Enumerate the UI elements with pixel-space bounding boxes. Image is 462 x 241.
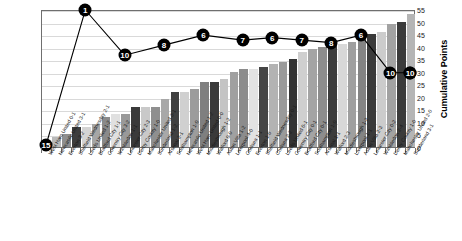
y-axis-title: Cumulative Points <box>437 10 451 148</box>
position-marker: 10 <box>118 49 131 62</box>
position-marker: 10 <box>404 66 417 79</box>
position-marker: 1 <box>79 4 92 17</box>
y-axis-tick-label: 50 <box>417 19 425 26</box>
position-marker: 6 <box>266 31 279 44</box>
x-axis-labels: West Ham United 0-1Newcastle United 3-1E… <box>41 153 415 241</box>
position-marker: 7 <box>295 34 308 47</box>
position-marker: 8 <box>158 39 171 52</box>
y-axis-tick-label: 30 <box>417 69 425 76</box>
y-axis-tick-label: 55 <box>417 7 425 14</box>
position-marker: 8 <box>325 36 338 49</box>
position-marker: 6 <box>197 29 210 42</box>
y-axis-tick-label: 20 <box>417 94 425 101</box>
position-marker: 6 <box>354 29 367 42</box>
y-axis-tick-label: 40 <box>417 44 425 51</box>
cumulative-points-chart: 151108676786101010 051015202530354045505… <box>0 0 462 241</box>
y-axis-title-label: Cumulative Points <box>439 40 449 119</box>
y-axis-tick-label: 25 <box>417 82 425 89</box>
y-axis-tick-label: 15 <box>417 107 425 114</box>
y-axis-tick-label: 35 <box>417 57 425 64</box>
position-marker: 7 <box>236 34 249 47</box>
position-marker: 10 <box>384 66 397 79</box>
y-axis-tick-label: 45 <box>417 32 425 39</box>
